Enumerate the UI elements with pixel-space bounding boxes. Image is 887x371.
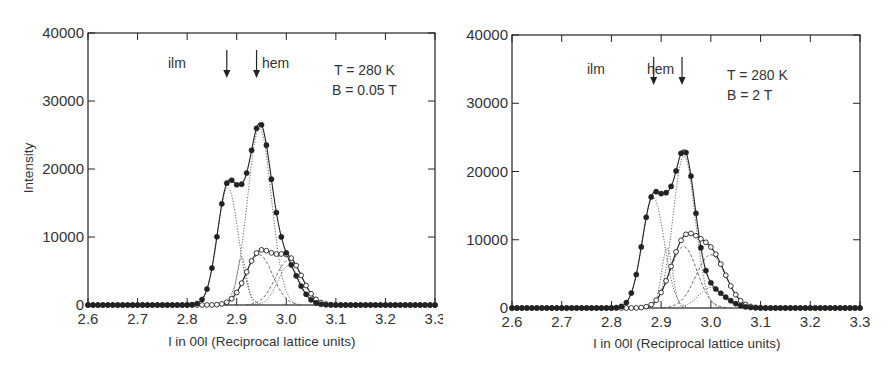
filled-data-point — [748, 305, 753, 310]
filled-data-point — [604, 305, 609, 310]
temperature-label: T = 280 K — [334, 62, 396, 78]
filled-data-point — [398, 302, 403, 307]
filled-data-point — [170, 302, 175, 307]
y-tick-label: 40000 — [466, 26, 508, 43]
filled-data-point — [718, 291, 723, 296]
filled-data-point — [654, 189, 659, 194]
filled-data-point — [105, 302, 110, 307]
x-tick-label: 3.1 — [325, 310, 346, 327]
y-tick-label: 30000 — [42, 92, 84, 109]
filled-data-point — [753, 305, 758, 310]
filled-data-point — [279, 234, 284, 239]
y-tick-label: 30000 — [466, 94, 508, 111]
filled-data-point — [333, 302, 338, 307]
filled-data-point — [833, 305, 838, 310]
open-data-point — [659, 290, 664, 295]
filled-data-point — [842, 305, 847, 310]
filled-data-point — [413, 302, 418, 307]
filled-data-point — [668, 184, 673, 189]
fit-component-dotted — [649, 156, 719, 307]
filled-data-point — [120, 302, 125, 307]
filled-data-point — [408, 302, 413, 307]
filled-data-point — [564, 305, 569, 310]
open-data-point — [699, 236, 704, 241]
filled-data-point — [85, 302, 90, 307]
open-data-point — [274, 252, 279, 257]
filled-data-point — [519, 305, 524, 310]
open-data-point — [684, 232, 689, 237]
x-tick-label: 3.0 — [700, 313, 721, 330]
filled-data-point — [584, 305, 589, 310]
open-data-point — [249, 259, 254, 264]
y-tick-label: 20000 — [42, 160, 84, 177]
filled-data-point — [199, 297, 204, 302]
x-tick-label: 3.3 — [425, 310, 443, 327]
filled-data-point — [155, 302, 160, 307]
filled-data-point — [328, 302, 333, 307]
filled-data-point — [639, 244, 644, 249]
open-data-point — [629, 306, 634, 311]
filled-data-point — [798, 305, 803, 310]
chart-panel-right: 010000200003000040000 2.62.72.82.93.03.1… — [443, 0, 887, 371]
open-data-point — [649, 302, 654, 307]
filled-data-point — [368, 302, 373, 307]
filled-data-point — [209, 265, 214, 270]
open-data-point — [644, 304, 649, 309]
filled-data-point — [773, 305, 778, 310]
filled-data-point — [703, 268, 708, 273]
temperature-label: T = 280 K — [727, 67, 789, 83]
filled-data-point — [758, 305, 763, 310]
x-tick-label: 3.3 — [850, 313, 871, 330]
filled-data-point — [115, 302, 120, 307]
open-data-point — [294, 263, 299, 268]
open-data-point — [664, 278, 669, 283]
filled-data-point — [373, 302, 378, 307]
open-data-point — [269, 250, 274, 255]
x-tick-label: 2.6 — [78, 310, 99, 327]
x-tick-label: 3.0 — [276, 310, 297, 327]
open-data-point — [279, 252, 284, 257]
axes-box — [512, 35, 860, 308]
filled-data-point — [110, 302, 115, 307]
filled-data-point — [185, 302, 190, 307]
filled-data-point — [269, 177, 274, 182]
open-data-point — [234, 290, 239, 295]
data-points — [85, 122, 437, 307]
filled-data-point — [403, 302, 408, 307]
filled-data-point — [160, 302, 165, 307]
open-data-point — [229, 296, 234, 301]
field-label: B = 0.05 T — [332, 82, 397, 98]
filled-data-point — [299, 283, 304, 288]
open-data-point — [634, 305, 639, 310]
filled-data-point — [388, 302, 393, 307]
filled-data-point — [783, 305, 788, 310]
filled-data-point — [708, 280, 713, 285]
filled-data-point — [214, 234, 219, 239]
filled-data-point — [599, 305, 604, 310]
fit-total-curve — [88, 250, 435, 305]
filled-data-point — [559, 305, 564, 310]
filled-data-point — [609, 305, 614, 310]
filled-data-point — [304, 292, 309, 297]
y-tick-label: 20000 — [466, 163, 508, 180]
intensity-chart-b2: 010000200003000040000 2.62.72.82.93.03.1… — [443, 0, 887, 371]
filled-data-point — [524, 305, 529, 310]
x-tick-label: 2.9 — [226, 310, 247, 327]
filled-data-point — [728, 298, 733, 303]
open-data-point — [639, 305, 644, 310]
filled-data-point — [539, 305, 544, 310]
filled-data-point — [579, 305, 584, 310]
filled-data-point — [544, 305, 549, 310]
x-tick-label: 3.1 — [750, 313, 771, 330]
x-tick-label: 2.8 — [601, 313, 622, 330]
filled-data-point — [318, 302, 323, 307]
field-label: B = 2 T — [727, 87, 773, 103]
x-axis-title: l in 00l (Reciprocal lattice units) — [169, 334, 356, 349]
filled-data-point — [358, 302, 363, 307]
filled-data-point — [574, 305, 579, 310]
open-data-point — [674, 249, 679, 254]
x-axis-title: l in 00l (Reciprocal lattice units) — [594, 336, 781, 351]
filled-data-point — [175, 302, 180, 307]
filled-data-point — [165, 302, 170, 307]
open-data-point — [728, 284, 733, 289]
